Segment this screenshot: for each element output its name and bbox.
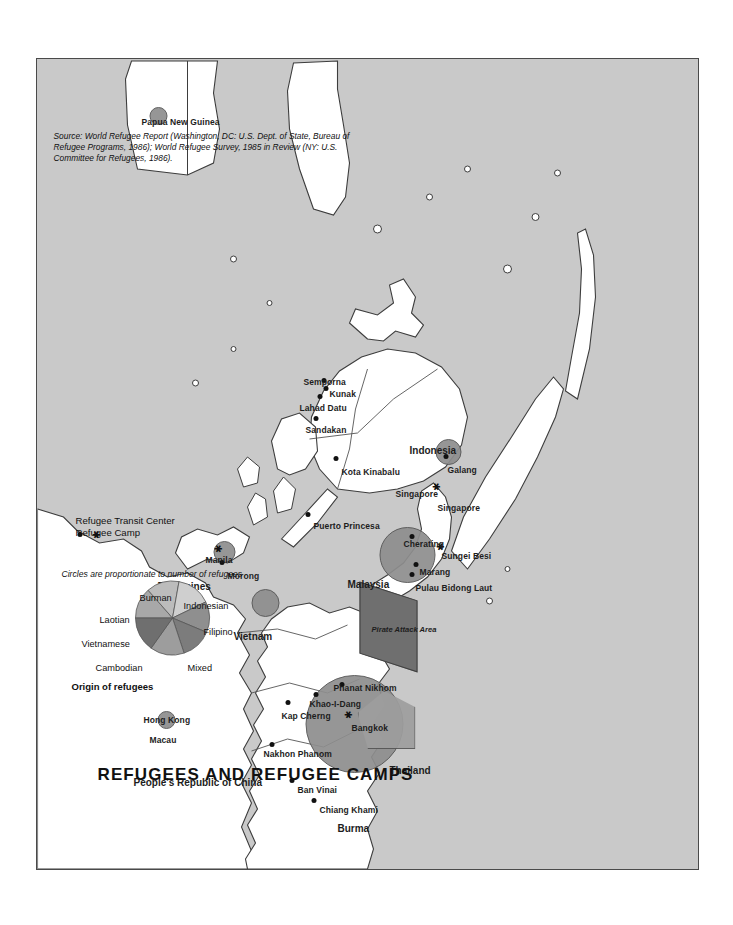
camp-dot-puerto-princesa	[305, 512, 310, 517]
camp-dot-kota-kinabalu	[333, 456, 338, 461]
label-vietnam: Vietnam	[233, 631, 272, 642]
page-title: REFUGEES AND REFUGEE CAMPS	[97, 765, 413, 785]
label-semporna: Semporna	[303, 377, 345, 387]
camp-dot-pulau-bidong	[409, 572, 414, 577]
label-galang: Galang	[447, 465, 476, 475]
label-macau: Macau	[149, 735, 176, 745]
label-singapore-camp: Singapore	[437, 503, 479, 513]
label-manila: Manila	[205, 555, 232, 565]
legend-origin-pie	[133, 579, 211, 657]
legend-label-burman: Burman	[139, 593, 171, 603]
label-bangkok: Bangkok	[351, 723, 388, 733]
camp-dot-nakhon-phanom	[269, 742, 274, 747]
label-chiang-khami: Chiang Khami	[319, 805, 377, 815]
label-png: Papua New Guinea	[141, 117, 219, 127]
label-hong-kong: Hong Kong	[143, 715, 190, 725]
camp-dot-marang	[413, 562, 418, 567]
label-sungei-besi: Sungei Besi	[441, 551, 491, 561]
legend-label-laotian: Laotian	[99, 615, 129, 625]
legend-label-transit-center: Refugee Transit Center	[75, 515, 174, 526]
label-cherating: Cherating	[403, 539, 444, 549]
camp-dot-sandakan	[313, 416, 318, 421]
label-pirate-attack-area: Pirate Attack Area	[371, 625, 436, 634]
legend-label-filipino: Filipino	[203, 627, 232, 637]
transit-star-manila: ✱	[213, 545, 223, 553]
map-page: ✱ ✱ ✱ ✱ People's Republic of China Macau…	[0, 0, 733, 925]
label-nakhon-phanom: Nakhon Phanom	[263, 749, 331, 759]
label-malaysia: Malaysia	[347, 579, 389, 590]
label-lahad-datu: Lahad Datu	[299, 403, 346, 413]
legend-label-mixed: Mixed	[187, 663, 212, 673]
label-kap-cherng: Kap Cherng	[281, 711, 330, 721]
label-kunak: Kunak	[329, 389, 355, 399]
legend-label-vietnamese: Vietnamese	[81, 639, 129, 649]
map-frame: ✱ ✱ ✱ ✱ People's Republic of China Macau…	[36, 58, 699, 870]
label-pulau-bidong: Pulau Bidong Laut	[415, 583, 492, 593]
bubble-vietnam	[251, 589, 279, 617]
camp-dot-lahad-datu	[317, 394, 322, 399]
legend-label-cambodian: Cambodian	[95, 663, 142, 673]
legend-origin-heading: Origin of refugees	[71, 681, 153, 692]
legend-label-indonesian: Indonesian	[183, 601, 228, 611]
camp-dot-khao-i-dang	[313, 692, 318, 697]
map-rotated-layer: ✱ ✱ ✱ ✱ People's Republic of China Macau…	[37, 59, 698, 869]
label-kota-kinabalu: Kota Kinabalu	[341, 467, 399, 477]
label-indonesia: Indonesia	[409, 445, 456, 456]
label-ban-vinai: Ban Vinai	[297, 785, 336, 795]
label-marang: Marang	[419, 567, 450, 577]
label-phanat-nikhom: Phanat Nikhom	[333, 683, 396, 693]
camp-dot-kap-cherng	[285, 700, 290, 705]
label-puerto-princesa: Puerto Princesa	[313, 521, 379, 531]
transit-star-bangkok: ✱	[343, 711, 353, 719]
legend-label-refugee-camp: Refugee Camp	[75, 527, 140, 538]
camp-dot-chiang-khami	[311, 798, 316, 803]
label-singapore: Singapore	[395, 489, 437, 499]
source-note: Source: World Refugee Report (Washington…	[53, 131, 353, 164]
label-khao-i-dang: Khao-I-Dang	[309, 699, 361, 709]
label-sandakan: Sandakan	[305, 425, 346, 435]
label-burma: Burma	[337, 823, 369, 834]
legend-scale-note: Circles are proportionate to number of r…	[61, 569, 242, 579]
